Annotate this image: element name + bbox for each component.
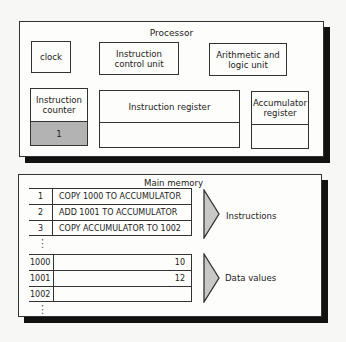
table-row: 2 ADD 1001 TO ACCUMULATOR xyxy=(29,204,191,220)
instruction-counter-label: Instruction counter xyxy=(31,89,87,121)
data-content: 12 xyxy=(54,271,191,286)
clock-label: clock xyxy=(40,52,62,62)
instruction-address: 2 xyxy=(29,205,53,220)
instruction-register-value xyxy=(100,122,239,147)
instruction-counter-box: Instruction counter 1 xyxy=(30,88,88,146)
data-address: 1001 xyxy=(29,271,54,286)
instruction-control-unit-box: Instruction control unit xyxy=(99,42,179,75)
clock-box: clock xyxy=(31,41,71,73)
ellipsis-data: ⋮ xyxy=(37,304,48,315)
instruction-register-label: Instruction register xyxy=(100,91,239,122)
instructions-label: Instructions xyxy=(226,211,276,221)
ellipsis-instructions: ⋮ xyxy=(37,238,48,249)
accumulator-register-box: Accumulator register xyxy=(251,91,309,149)
instruction-control-unit-label: Instruction control unit xyxy=(112,49,166,69)
data-content xyxy=(54,287,191,302)
alu-box: Arithmetic and logic unit xyxy=(209,43,287,76)
data-content: 10 xyxy=(54,255,191,270)
alu-label: Arithmetic and logic unit xyxy=(216,50,280,70)
instruction-address: 3 xyxy=(29,221,53,236)
table-row: 1002 xyxy=(29,286,191,302)
accumulator-register-value xyxy=(252,124,308,148)
data-table: 1000 10 1001 12 1002 xyxy=(29,254,192,302)
main-memory-title: Main memory xyxy=(144,178,264,188)
instruction-address: 1 xyxy=(29,189,53,204)
instruction-content: COPY 1000 TO ACCUMULATOR xyxy=(53,189,191,204)
data-address: 1002 xyxy=(29,287,54,302)
processor-title: Processor xyxy=(20,28,323,38)
instruction-register-box: Instruction register xyxy=(99,90,240,148)
data-values-label: Data values xyxy=(225,273,276,283)
instruction-content: ADD 1001 TO ACCUMULATOR xyxy=(53,205,191,220)
instructions-brace-icon xyxy=(203,189,221,239)
table-row: 1 COPY 1000 TO ACCUMULATOR xyxy=(29,188,191,204)
data-address: 1000 xyxy=(29,255,54,270)
instructions-table: 1 COPY 1000 TO ACCUMULATOR 2 ADD 1001 TO… xyxy=(29,188,192,236)
table-row: 1001 12 xyxy=(29,270,191,286)
table-row: 1000 10 xyxy=(29,254,191,270)
instruction-content: COPY ACCUMULATOR TO 1002 xyxy=(53,221,191,236)
table-row: 3 COPY ACCUMULATOR TO 1002 xyxy=(29,220,191,236)
accumulator-register-label: Accumulator register xyxy=(252,92,308,124)
data-values-brace-icon xyxy=(203,253,221,303)
instruction-counter-value: 1 xyxy=(31,121,87,145)
